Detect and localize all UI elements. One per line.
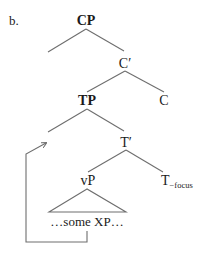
node-tp: TP — [78, 93, 96, 108]
node-t-subscript: −focus — [170, 180, 193, 190]
edge-cbar-c — [125, 71, 164, 92]
edge-cp-cbar — [86, 29, 124, 51]
node-t-focus: T−focus — [161, 173, 193, 190]
node-vp: vP — [81, 173, 96, 188]
node-cp: CP — [77, 13, 96, 28]
node-t-bar: T′ — [120, 135, 132, 150]
syntax-tree-diagram: b. CP C′ TP C T′ vP T−focus …some XP… — [0, 0, 207, 253]
vp-triangle — [49, 189, 126, 212]
edge-tbar-vp — [88, 150, 126, 172]
example-label: b. — [9, 13, 19, 28]
edge-tp-spec — [48, 109, 87, 132]
edge-cbar-tp — [87, 71, 125, 92]
node-c: C — [159, 93, 168, 108]
edge-tbar-t — [126, 150, 163, 172]
triangle-content: …some XP… — [50, 214, 123, 229]
edge-tp-tbar — [87, 109, 124, 131]
edge-cp-spec — [48, 29, 86, 52]
node-c-bar: C′ — [119, 56, 131, 71]
